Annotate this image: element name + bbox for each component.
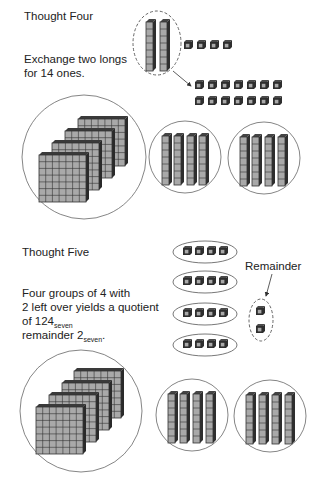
remainder-oval <box>249 299 273 341</box>
remainder-arrow-icon <box>266 274 272 296</box>
longs-group-circle-1 <box>149 121 221 193</box>
long-block-icon <box>146 19 156 71</box>
exchanged-ones <box>195 80 282 105</box>
arrow-icon <box>173 71 191 86</box>
base-seven-division-diagram: Thought Four Exchange two longs for 14 o… <box>0 0 312 487</box>
long-block-icon <box>160 19 170 71</box>
blocks-illustration <box>0 0 312 487</box>
longs-group-circle-3 <box>156 379 228 451</box>
longs-group-circle-2 <box>228 122 300 194</box>
ones-groups <box>173 241 237 356</box>
exchange-oval <box>133 11 181 75</box>
loose-ones <box>184 40 232 49</box>
longs-group-circle-4 <box>234 380 306 452</box>
